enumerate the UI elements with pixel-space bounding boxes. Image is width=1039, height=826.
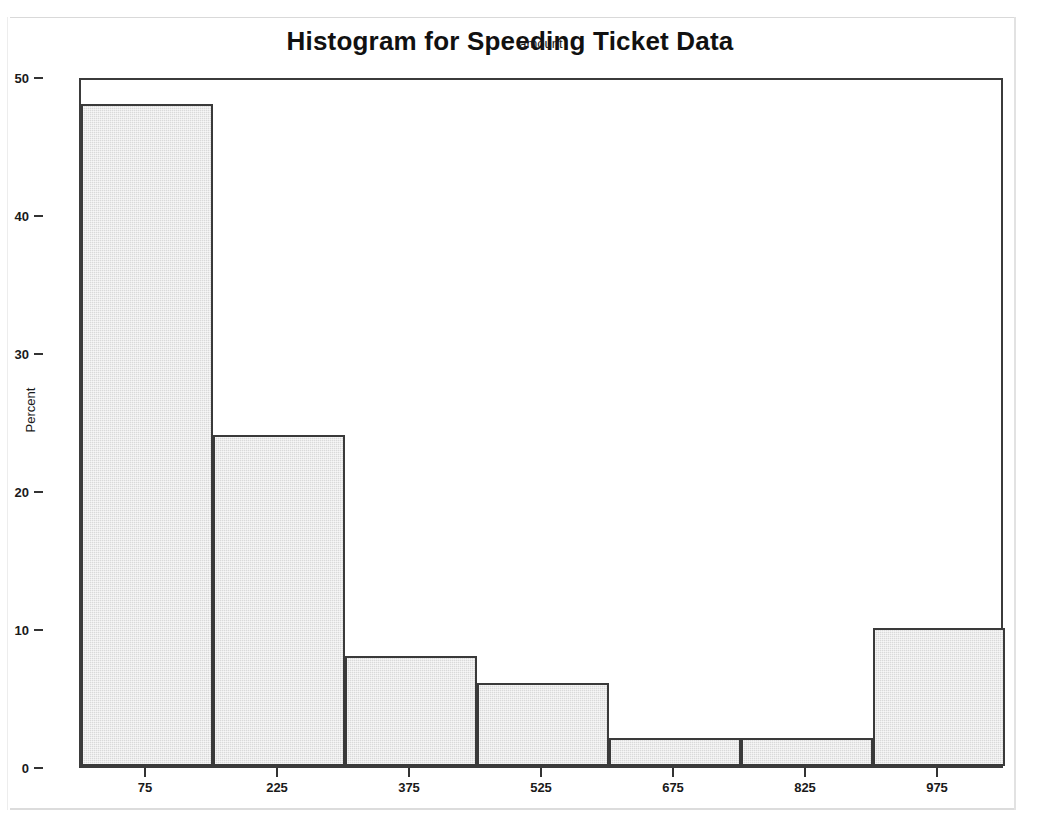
- x-axis-tick-label: 675: [662, 780, 684, 795]
- chart-page: Histogram for Speeding Ticket Data 01020…: [0, 0, 1039, 826]
- x-axis-tick-label: 975: [926, 780, 948, 795]
- chart-title: Histogram for Speeding Ticket Data: [0, 26, 1020, 57]
- y-axis-tick-label: 10: [15, 623, 29, 638]
- y-axis: 01020304050: [0, 0, 79, 826]
- y-axis-tick: [34, 491, 43, 493]
- x-axis-tick-label: 825: [794, 780, 816, 795]
- x-axis-tick-label: 75: [138, 780, 152, 795]
- plot-area: [79, 78, 1003, 768]
- histogram-bar: [345, 656, 477, 766]
- x-axis-tick-label: 525: [530, 780, 552, 795]
- histogram-bar: [213, 435, 345, 766]
- y-axis-tick: [34, 215, 43, 217]
- x-axis-tick: [408, 768, 410, 777]
- x-axis-tick: [144, 768, 146, 777]
- x-axis-tick: [276, 768, 278, 777]
- x-axis-tick: [672, 768, 674, 777]
- x-axis-tick-label: 225: [266, 780, 288, 795]
- y-axis-title: Percent: [23, 388, 38, 433]
- x-axis: 75225375525675825975: [0, 766, 1039, 826]
- histogram-bar: [741, 738, 873, 766]
- histogram-bar: [873, 628, 1005, 766]
- y-axis-tick-label: 30: [15, 347, 29, 362]
- y-axis-tick: [34, 353, 43, 355]
- y-axis-tick: [34, 77, 43, 79]
- x-axis-title: amount: [519, 36, 562, 51]
- x-axis-tick: [540, 768, 542, 777]
- histogram-bar: [609, 738, 741, 766]
- x-axis-tick: [936, 768, 938, 777]
- y-axis-tick-label: 20: [15, 485, 29, 500]
- page-edge-top: [10, 17, 1015, 18]
- y-axis-tick-label: 50: [15, 71, 29, 86]
- x-axis-tick: [804, 768, 806, 777]
- x-axis-tick-label: 375: [398, 780, 420, 795]
- page-edge-right: [1014, 17, 1016, 810]
- y-axis-tick-label: 40: [15, 209, 29, 224]
- histogram-bar: [81, 104, 213, 766]
- y-axis-tick: [34, 629, 43, 631]
- histogram-bars: [81, 80, 1001, 766]
- histogram-bar: [477, 683, 609, 766]
